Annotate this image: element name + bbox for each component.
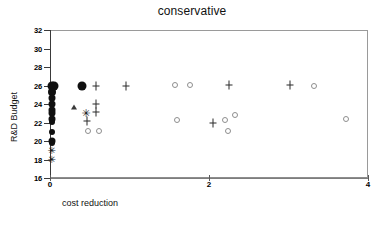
data-point-triangle — [71, 104, 77, 109]
plot-area: ✳✳✳ — [50, 30, 368, 178]
x-tick-label: 0 — [38, 180, 62, 189]
x-tick-label: 4 — [356, 180, 380, 189]
data-point-plus — [93, 108, 100, 117]
data-point-filled-circle — [77, 82, 86, 91]
data-point-filled-circle — [49, 129, 55, 135]
data-point-plus — [93, 81, 100, 90]
y-tick-label: 30 — [16, 45, 42, 54]
y-tick-label: 28 — [16, 63, 42, 72]
data-point-open-circle — [96, 128, 102, 134]
data-point-plus — [122, 81, 129, 90]
data-point-open-circle — [222, 117, 228, 123]
y-tick-label: 24 — [16, 100, 42, 109]
y-tick-label: 18 — [16, 156, 42, 165]
data-point-open-circle — [187, 82, 193, 88]
data-point-filled-circle — [49, 119, 55, 125]
y-tick-label: 26 — [16, 82, 42, 91]
data-point-open-circle — [311, 83, 317, 89]
y-axis-title: R&D Budget — [9, 84, 19, 150]
data-point-open-circle — [232, 112, 238, 118]
data-point-star: ✳ — [46, 155, 58, 165]
chart-root: conservative 161820222426283032 024 ✳✳✳ … — [0, 0, 384, 233]
x-tick-label: 2 — [197, 180, 221, 189]
y-tick-label: 22 — [16, 119, 42, 128]
data-point-open-circle — [343, 116, 349, 122]
data-point-open-circle — [174, 117, 180, 123]
data-point-open-circle — [172, 82, 178, 88]
chart-title: conservative — [0, 4, 384, 18]
data-point-plus — [225, 80, 232, 89]
x-axis-title: cost reduction — [62, 198, 118, 208]
y-tick-label: 20 — [16, 137, 42, 146]
data-point-plus — [287, 80, 294, 89]
y-tick-label: 32 — [16, 26, 42, 35]
data-point-open-circle — [85, 128, 91, 134]
data-point-open-circle — [225, 128, 231, 134]
data-point-star: ✳ — [79, 108, 92, 119]
data-point-plus — [209, 119, 216, 128]
